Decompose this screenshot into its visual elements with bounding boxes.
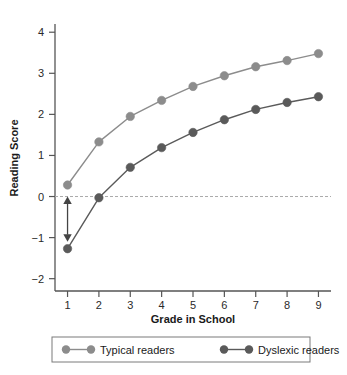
data-point xyxy=(252,63,260,71)
x-tick-label: 3 xyxy=(127,299,133,311)
x-axis-title: Grade in School xyxy=(151,313,235,325)
data-point xyxy=(126,163,134,171)
x-tick-label: 8 xyxy=(284,299,290,311)
data-point xyxy=(220,116,228,124)
data-point xyxy=(189,82,197,90)
data-point xyxy=(63,181,71,189)
legend-marker xyxy=(245,345,253,353)
data-point xyxy=(95,138,103,146)
data-point xyxy=(95,194,103,202)
x-tick-label: 6 xyxy=(221,299,227,311)
x-tick-label: 1 xyxy=(64,299,70,311)
x-tick-label: 2 xyxy=(96,299,102,311)
x-tick-label: 4 xyxy=(159,299,165,311)
legend-marker xyxy=(87,345,95,353)
y-tick-label: 0 xyxy=(38,191,44,203)
x-tick-label: 5 xyxy=(190,299,196,311)
data-point xyxy=(283,98,291,106)
chart-figure: 43210−1−2 123456789 Reading Score Grade … xyxy=(0,0,347,375)
y-tick-label: 4 xyxy=(38,26,44,38)
data-point xyxy=(126,112,134,120)
y-tick-label: 1 xyxy=(38,149,44,161)
legend-marker xyxy=(220,345,228,353)
y-tick-label: 2 xyxy=(38,108,44,120)
data-point xyxy=(157,143,165,151)
y-tick-label: 3 xyxy=(38,67,44,79)
x-tick-label: 9 xyxy=(315,299,321,311)
data-point xyxy=(314,93,322,101)
chart-legend: Typical readersDyslexic readers xyxy=(52,337,340,362)
data-point xyxy=(189,128,197,136)
data-point xyxy=(63,244,71,252)
x-tick-label: 7 xyxy=(253,299,259,311)
y-tick-label: −2 xyxy=(31,273,44,285)
data-point xyxy=(157,96,165,104)
data-point xyxy=(220,72,228,80)
legend-label: Typical readers xyxy=(100,344,175,356)
reading-score-line-chart: 43210−1−2 123456789 Reading Score Grade … xyxy=(0,0,347,375)
data-point xyxy=(283,56,291,64)
data-point xyxy=(314,49,322,57)
y-axis-title: Reading Score xyxy=(8,119,20,196)
y-tick-label: −1 xyxy=(31,232,44,244)
data-point xyxy=(252,105,260,113)
legend-label: Dyslexic readers xyxy=(258,344,340,356)
legend-marker xyxy=(62,345,70,353)
